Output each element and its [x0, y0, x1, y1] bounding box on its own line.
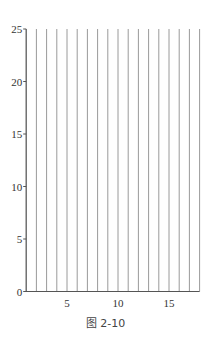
y-tick-label: 15	[11, 128, 23, 140]
y-axis-ticks: 0510152025	[11, 23, 26, 298]
y-tick-label: 20	[11, 76, 23, 88]
y-tick-label: 10	[11, 181, 23, 193]
y-tick-label: 0	[17, 286, 23, 298]
data-lines	[26, 29, 199, 292]
x-tick-label: 15	[164, 297, 176, 309]
x-axis-ticks: 51015	[64, 297, 175, 309]
figure-caption: 图 2-10	[0, 314, 211, 330]
y-tick-label: 5	[17, 233, 23, 245]
chart: 0510152025 51015	[0, 0, 211, 342]
axes	[24, 29, 199, 292]
x-tick-label: 5	[64, 297, 70, 309]
y-tick-label: 25	[11, 23, 23, 35]
x-tick-label: 10	[113, 297, 125, 309]
